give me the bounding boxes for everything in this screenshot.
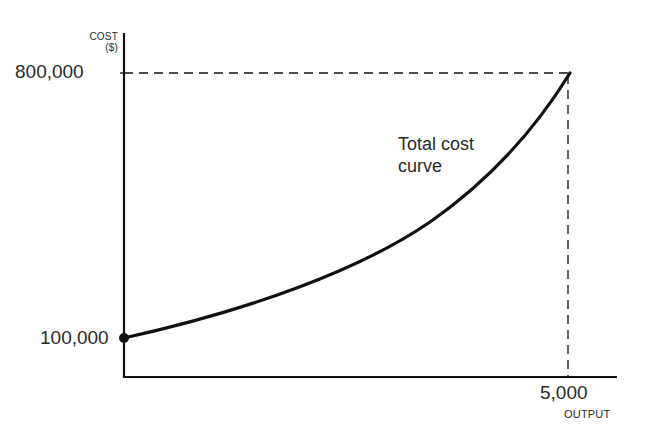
y-tick-label-100000: 100,000 bbox=[40, 327, 109, 349]
curve-annotation: Total cost curve bbox=[398, 133, 474, 177]
curve-annotation-line1: Total cost bbox=[398, 133, 474, 155]
chart-canvas bbox=[0, 0, 649, 447]
start-point-marker bbox=[119, 333, 129, 343]
y-axis-title-line2: ($) bbox=[80, 42, 118, 53]
y-axis-title-line1: COST bbox=[80, 31, 118, 42]
x-axis-title: OUTPUT bbox=[564, 408, 610, 420]
y-tick-label-800000: 800,000 bbox=[15, 61, 84, 83]
curve-annotation-line2: curve bbox=[398, 155, 474, 177]
y-axis-title: COST ($) bbox=[80, 31, 118, 53]
x-tick-label-5000: 5,000 bbox=[540, 382, 588, 404]
total-cost-curve bbox=[124, 73, 570, 338]
